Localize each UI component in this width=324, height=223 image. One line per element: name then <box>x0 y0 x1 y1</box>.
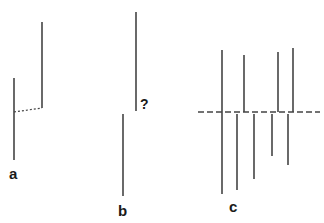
line-segments <box>14 12 320 196</box>
question-mark: ? <box>140 97 149 111</box>
diagram-canvas <box>0 0 324 223</box>
panel-b-label: b <box>118 203 127 218</box>
panel-c-label: c <box>229 199 237 214</box>
panel-a-dotted-connector <box>14 108 42 112</box>
panel-a-label: a <box>9 166 17 181</box>
